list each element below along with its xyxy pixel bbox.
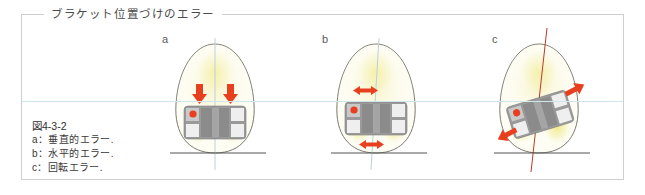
figure-root: ブラケット位置づけのエラー a [0, 0, 645, 195]
caption-line-c: c：回転エラー. [32, 161, 114, 175]
bracket-a [184, 106, 246, 139]
bracket-marker-dot-b [350, 106, 357, 113]
panel-c-illustration [465, 22, 615, 174]
horizontal-guideline [22, 101, 623, 102]
bracket-marker-dot-a [189, 110, 196, 117]
caption-line-a: a：垂直的エラー. [32, 133, 114, 147]
panel-b-horizontal-error: b [298, 22, 448, 174]
panel-c-rotation-error: c [465, 22, 615, 174]
panel-a-illustration [140, 22, 290, 174]
panel-a-vertical-error: a [140, 22, 290, 174]
panel-b-illustration [298, 22, 448, 174]
figure-caption: 図4-3-2 a：垂直的エラー. b：水平的エラー. c：回転エラー. [31, 118, 118, 176]
caption-line-b: b：水平的エラー. [32, 147, 114, 161]
tooth-shape-b [336, 44, 416, 153]
bracket-b [345, 102, 407, 135]
caption-number: 図4-3-2 [32, 119, 114, 133]
figure-title: ブラケット位置づけのエラー [44, 6, 222, 22]
